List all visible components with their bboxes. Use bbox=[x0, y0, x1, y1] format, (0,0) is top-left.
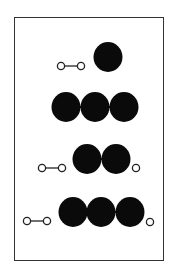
large-sphere bbox=[110, 92, 139, 122]
large-sphere bbox=[81, 92, 110, 122]
lone-small-atom bbox=[146, 218, 153, 225]
large-sphere bbox=[73, 144, 102, 174]
large-sphere bbox=[116, 197, 145, 227]
lone-small-atom bbox=[132, 164, 139, 171]
small-atom bbox=[43, 217, 50, 224]
large-sphere bbox=[94, 42, 123, 72]
diagram-canvas bbox=[0, 0, 177, 269]
small-atom bbox=[58, 164, 65, 171]
large-sphere bbox=[87, 197, 116, 227]
large-sphere bbox=[59, 197, 88, 227]
small-atom bbox=[38, 164, 45, 171]
small-atom bbox=[23, 217, 30, 224]
large-sphere bbox=[102, 144, 131, 174]
small-atom bbox=[57, 62, 64, 69]
large-sphere bbox=[52, 92, 81, 122]
small-atom bbox=[77, 62, 84, 69]
